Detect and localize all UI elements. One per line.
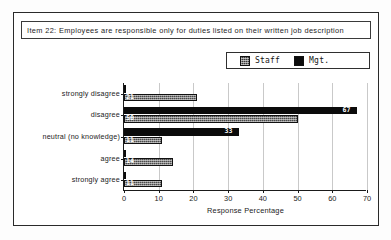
y-axis-label: agree <box>15 154 124 163</box>
x-tick-label: 30 <box>224 194 232 203</box>
x-tick <box>159 190 160 193</box>
x-tick-label: 70 <box>363 194 371 203</box>
bar-mgt <box>124 172 126 180</box>
x-tick-label: 10 <box>155 194 163 203</box>
x-tick <box>124 190 125 193</box>
bar-value-mgt: 67 <box>343 107 351 115</box>
x-tick-label: 60 <box>328 194 336 203</box>
bar-value-mgt: 33 <box>225 128 233 136</box>
chart-legend: Staff Mgt. <box>226 52 370 69</box>
x-tick <box>228 190 229 193</box>
page-title: Item 22: Employees are responsible only … <box>22 26 344 35</box>
chart-page: Item 22: Employees are responsible only … <box>0 0 391 240</box>
x-tick <box>263 190 264 193</box>
plot-area: strongly disagree21disagree6750neutral (… <box>123 83 366 191</box>
bar-mgt <box>124 128 239 136</box>
x-tick-label: 0 <box>122 194 126 203</box>
bar-mgt <box>124 107 357 115</box>
staff-hatched-swatch <box>240 56 250 66</box>
x-tick <box>332 190 333 193</box>
bar-row: neutral (no knowledge)3311 <box>124 126 366 148</box>
bar-row: disagree6750 <box>124 105 366 127</box>
x-tick-label: 20 <box>189 194 197 203</box>
bar-row: strongly disagree21 <box>124 83 366 105</box>
x-tick <box>298 190 299 193</box>
y-axis-label: disagree <box>15 110 124 119</box>
legend-item-staff: Staff <box>240 56 280 66</box>
figure-frame: Item 22: Employees are responsible only … <box>13 12 379 226</box>
x-tick <box>367 190 368 193</box>
y-axis-label: strongly disagree <box>15 89 124 98</box>
bar-value-staff: 50 <box>126 115 134 123</box>
legend-item-mgt: Mgt. <box>294 56 329 66</box>
x-axis-title: Response Percentage <box>124 206 367 215</box>
bar-value-staff: 14 <box>126 158 134 166</box>
bar-value-staff: 11 <box>126 180 134 188</box>
y-axis-label: strongly agree <box>15 175 124 184</box>
bar-row: agree14 <box>124 148 366 170</box>
gridline <box>367 83 368 190</box>
chart-title-box: Item 22: Employees are responsible only … <box>21 21 371 39</box>
mgt-solid-swatch <box>294 56 304 66</box>
x-tick-label: 50 <box>293 194 301 203</box>
bar-row: strongly agree11 <box>124 169 366 191</box>
plot-wrapper: strongly disagree21disagree6750neutral (… <box>14 73 380 227</box>
bar-staff <box>124 94 197 102</box>
y-axis-label: neutral (no knowledge) <box>15 132 124 141</box>
x-tick-label: 40 <box>259 194 267 203</box>
bar-value-staff: 11 <box>126 137 134 145</box>
bar-mgt <box>124 85 126 93</box>
legend-label-staff: Staff <box>255 56 280 65</box>
legend-label-mgt: Mgt. <box>309 56 329 65</box>
x-tick <box>193 190 194 193</box>
bar-staff <box>124 115 298 123</box>
bar-value-staff: 21 <box>126 94 134 102</box>
bar-mgt <box>124 150 126 158</box>
